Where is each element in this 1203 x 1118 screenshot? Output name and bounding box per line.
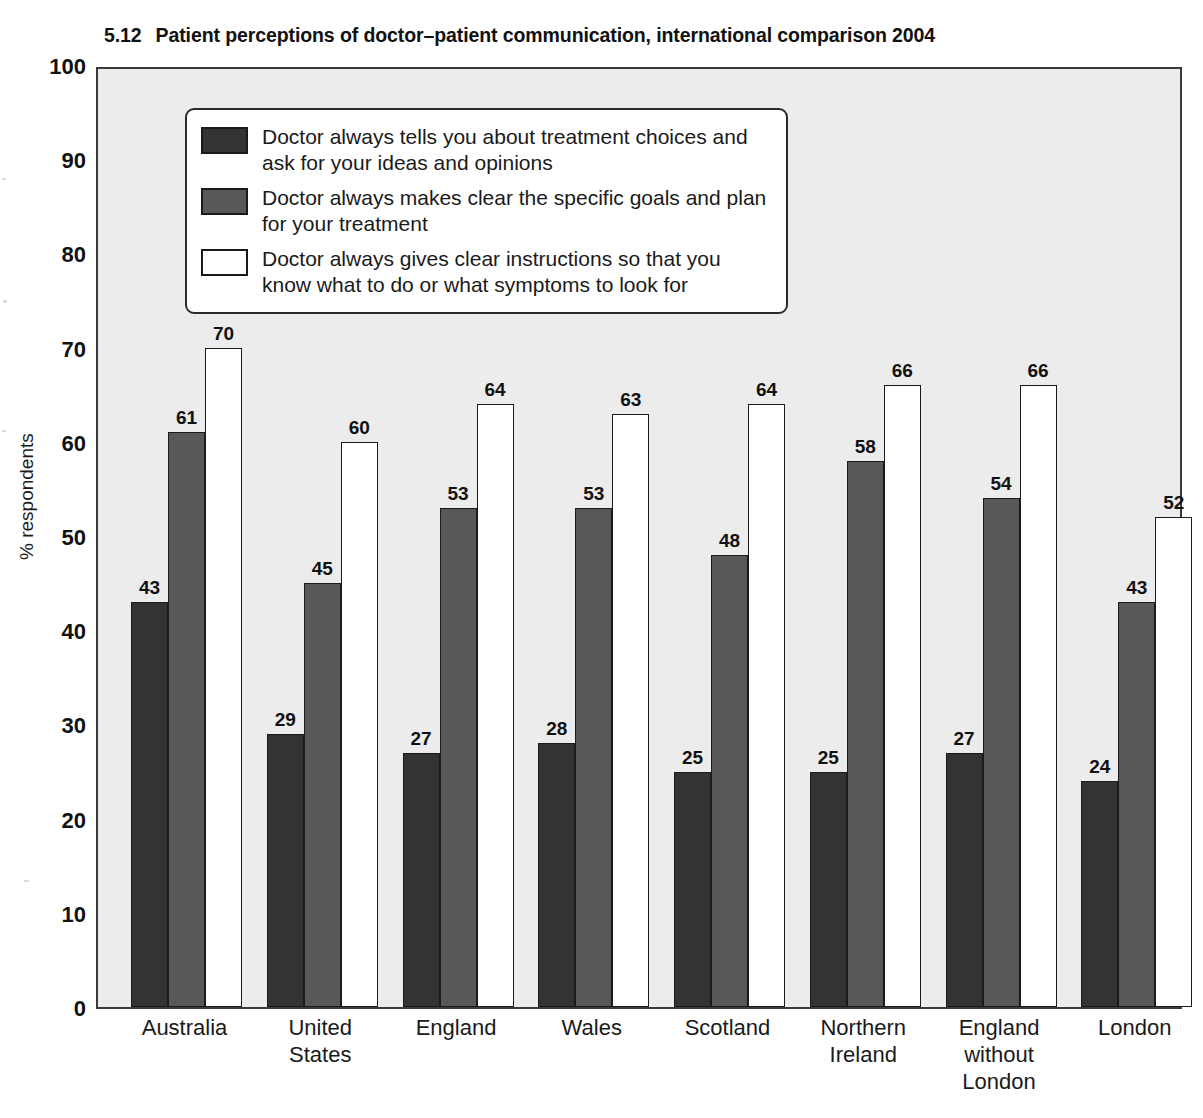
y-axis-tick-label: 90: [0, 148, 86, 174]
y-axis-tick-label: 20: [0, 808, 86, 834]
bar: 70: [205, 348, 242, 1007]
legend-label: Doctor always gives clear instructions s…: [262, 246, 770, 298]
bar-value-label: 53: [583, 483, 604, 505]
y-axis-tick-label: 40: [0, 619, 86, 645]
y-axis-tick-label: 100: [0, 54, 86, 80]
legend: Doctor always tells you about treatment …: [185, 108, 788, 314]
bar: 43: [1118, 602, 1155, 1007]
bar: 61: [168, 432, 205, 1007]
bar-value-label: 24: [1089, 756, 1110, 778]
bar-value-label: 63: [620, 389, 641, 411]
bar-group: 255866: [810, 69, 921, 1007]
bar: 54: [983, 498, 1020, 1007]
y-axis-tick-label: 30: [0, 713, 86, 739]
page-title: 5.12Patient perceptions of doctor–patien…: [104, 24, 935, 47]
bar: 64: [477, 404, 514, 1007]
bar: 28: [538, 743, 575, 1007]
y-axis-tick-label: 60: [0, 431, 86, 457]
legend-swatch: [201, 188, 248, 215]
legend-item: Doctor always tells you about treatment …: [201, 124, 770, 176]
bar-value-label: 70: [213, 323, 234, 345]
bar: 53: [440, 508, 477, 1007]
y-axis-tick-label: 50: [0, 525, 86, 551]
legend-label: Doctor always makes clear the specific g…: [262, 185, 770, 237]
y-axis-tick-label: 70: [0, 337, 86, 363]
bar-value-label: 29: [275, 709, 296, 731]
bar: 27: [946, 753, 983, 1007]
bar-value-label: 64: [756, 379, 777, 401]
bar: 53: [575, 508, 612, 1007]
y-axis-tick-label: 10: [0, 902, 86, 928]
bar-value-label: 66: [892, 360, 913, 382]
bar-value-label: 45: [312, 558, 333, 580]
bar: 52: [1155, 517, 1192, 1007]
y-axis-tick-label: 80: [0, 242, 86, 268]
bar-value-label: 28: [546, 718, 567, 740]
bar-group: 275466: [946, 69, 1057, 1007]
legend-swatch: [201, 249, 248, 276]
bar: 45: [304, 583, 341, 1007]
bar-value-label: 27: [410, 728, 431, 750]
bar-value-label: 43: [1126, 577, 1147, 599]
bar-value-label: 66: [1027, 360, 1048, 382]
bar-value-label: 58: [855, 436, 876, 458]
bar-value-label: 54: [990, 473, 1011, 495]
bar-value-label: 53: [447, 483, 468, 505]
bar-value-label: 25: [818, 747, 839, 769]
legend-item: Doctor always gives clear instructions s…: [201, 246, 770, 298]
bar: 24: [1081, 781, 1118, 1007]
bar-value-label: 27: [953, 728, 974, 750]
bar: 43: [131, 602, 168, 1007]
bar: 63: [612, 414, 649, 1007]
bar-value-label: 64: [484, 379, 505, 401]
bar: 25: [674, 772, 711, 1008]
legend-swatch: [201, 127, 248, 154]
scan-artifact: [24, 880, 29, 882]
bar: 48: [711, 555, 748, 1007]
figure-number: 5.12: [104, 24, 142, 46]
scan-artifact: [2, 178, 6, 180]
bar: 66: [884, 385, 921, 1007]
bar-group: 244352: [1081, 69, 1192, 1007]
legend-label: Doctor always tells you about treatment …: [262, 124, 770, 176]
scan-artifact: [3, 300, 7, 303]
bar: 64: [748, 404, 785, 1007]
x-axis-category-label: London: [1045, 1014, 1203, 1041]
y-axis-tick-label: 0: [0, 996, 86, 1022]
bar: 29: [267, 734, 304, 1007]
figure-title-text: Patient perceptions of doctor–patient co…: [156, 24, 936, 46]
bar: 58: [847, 461, 884, 1007]
bar: 66: [1020, 385, 1057, 1007]
bar: 25: [810, 772, 847, 1008]
bar-value-label: 61: [176, 407, 197, 429]
bar-value-label: 60: [349, 417, 370, 439]
bar-value-label: 52: [1163, 492, 1184, 514]
bar-value-label: 48: [719, 530, 740, 552]
bar: 27: [403, 753, 440, 1007]
bar-value-label: 43: [139, 577, 160, 599]
legend-item: Doctor always makes clear the specific g…: [201, 185, 770, 237]
bar: 60: [341, 442, 378, 1007]
bar-value-label: 25: [682, 747, 703, 769]
